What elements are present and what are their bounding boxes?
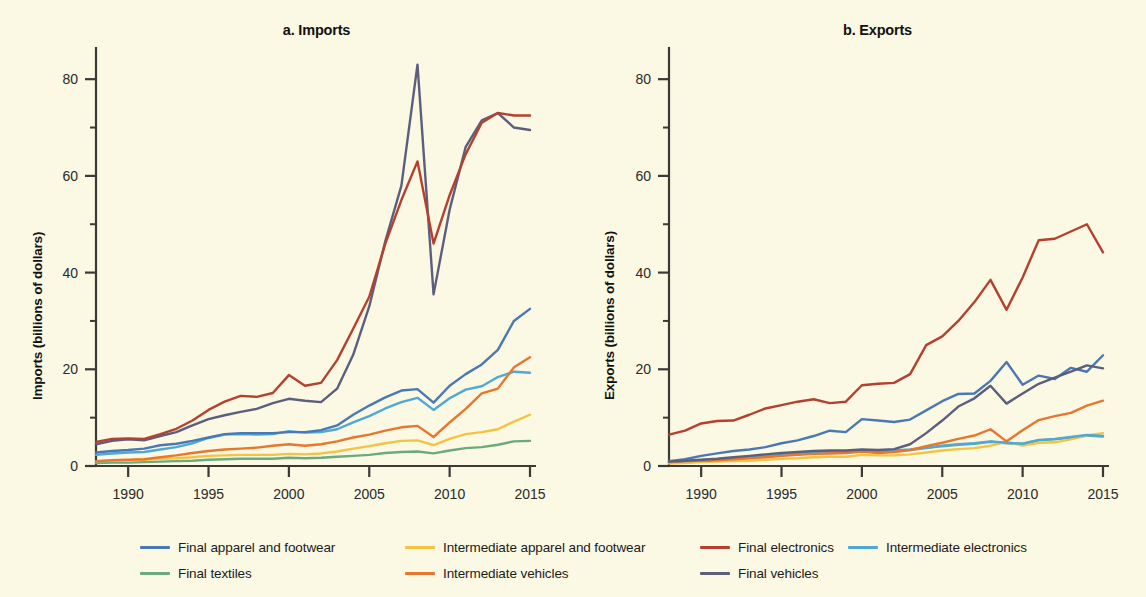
panel-imports: a. Imports 02040608019901995200020052010… xyxy=(0,0,573,520)
exports-plot: 020406080199019952000200520102015 xyxy=(573,0,1146,520)
legend-item-final-apparel-and-footwear[interactable]: Final apparel and footwear xyxy=(140,534,335,560)
x-tick-label: 2000 xyxy=(846,486,877,502)
legend-label: Final apparel and footwear xyxy=(178,540,335,555)
y-tick-label: 20 xyxy=(62,361,78,377)
legend-swatch-icon xyxy=(700,572,730,575)
chart-legend: Final apparel and footwearIntermediate a… xyxy=(0,528,1146,590)
x-tick-label: 1995 xyxy=(766,486,797,502)
panel-imports-title: a. Imports xyxy=(0,22,603,38)
series-line-intermediate-vehicles xyxy=(669,401,1103,462)
legend-item-intermediate-electronics[interactable]: Intermediate electronics xyxy=(848,534,1027,560)
y-tick-label: 60 xyxy=(62,168,78,184)
x-tick-label: 2010 xyxy=(434,486,465,502)
x-tick-label: 2010 xyxy=(1007,486,1038,502)
y-tick-label: 80 xyxy=(62,71,78,87)
y-tick-label: 40 xyxy=(635,265,651,281)
x-tick-label: 2005 xyxy=(927,486,958,502)
panel-exports-title: b. Exports xyxy=(573,22,1146,38)
legend-swatch-icon xyxy=(700,546,730,549)
series-line-final-apparel-and-footwear xyxy=(96,309,530,453)
exports-y-axis-label: Exports (billions of dollars) xyxy=(602,231,617,400)
legend-swatch-icon xyxy=(140,546,170,549)
legend-swatch-icon xyxy=(405,546,435,549)
y-tick-label: 60 xyxy=(635,168,651,184)
legend-row-top: Final apparel and footwearIntermediate a… xyxy=(0,534,1146,560)
y-tick-label: 0 xyxy=(643,458,651,474)
series-line-final-vehicles xyxy=(669,365,1103,461)
legend-swatch-icon xyxy=(140,572,170,575)
legend-label: Final vehicles xyxy=(738,566,818,581)
series-line-final-electronics xyxy=(669,224,1103,434)
legend-label: Intermediate apparel and footwear xyxy=(443,540,645,555)
y-tick-label: 20 xyxy=(635,361,651,377)
legend-swatch-icon xyxy=(405,572,435,575)
legend-item-final-vehicles[interactable]: Final vehicles xyxy=(700,560,818,586)
legend-item-intermediate-vehicles[interactable]: Intermediate vehicles xyxy=(405,560,568,586)
x-tick-label: 2005 xyxy=(354,486,385,502)
legend-item-intermediate-apparel-and-footwear[interactable]: Intermediate apparel and footwear xyxy=(405,534,645,560)
x-tick-label: 1990 xyxy=(113,486,144,502)
x-tick-label: 2015 xyxy=(514,486,545,502)
x-tick-label: 2000 xyxy=(273,486,304,502)
series-line-final-electronics xyxy=(96,113,530,442)
imports-y-axis-label: Imports (billions of dollars) xyxy=(30,232,45,400)
figure-container: a. Imports 02040608019901995200020052010… xyxy=(0,0,1146,597)
imports-plot: 020406080199019952000200520102015 xyxy=(0,0,573,520)
x-tick-label: 1995 xyxy=(193,486,224,502)
legend-row-bottom: Final textilesIntermediate vehiclesFinal… xyxy=(0,560,1146,586)
panel-exports: b. Exports 02040608019901995200020052010… xyxy=(573,0,1146,520)
legend-item-final-textiles[interactable]: Final textiles xyxy=(140,560,252,586)
x-tick-label: 2015 xyxy=(1087,486,1118,502)
y-tick-label: 0 xyxy=(70,458,78,474)
series-line-intermediate-apparel-and-footwear xyxy=(96,415,530,461)
legend-swatch-icon xyxy=(848,546,878,549)
y-tick-label: 80 xyxy=(635,71,651,87)
series-line-final-vehicles xyxy=(96,65,530,445)
legend-label: Intermediate vehicles xyxy=(443,566,568,581)
x-tick-label: 1990 xyxy=(686,486,717,502)
y-tick-label: 40 xyxy=(62,265,78,281)
legend-item-final-electronics[interactable]: Final electronics xyxy=(700,534,834,560)
legend-label: Final textiles xyxy=(178,566,252,581)
legend-label: Intermediate electronics xyxy=(886,540,1027,555)
legend-label: Final electronics xyxy=(738,540,834,555)
series-line-final-apparel-and-footwear xyxy=(669,355,1103,461)
